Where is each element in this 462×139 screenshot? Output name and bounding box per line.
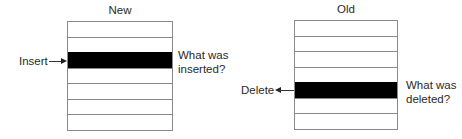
new-table-row	[68, 37, 172, 53]
inserted-question-line2: inserted?	[178, 62, 229, 76]
inserted-question: What was inserted?	[178, 48, 229, 76]
old-table-row	[295, 36, 397, 52]
insert-label: Insert	[19, 54, 48, 68]
old-table-row	[295, 113, 397, 129]
new-table-row	[68, 83, 172, 99]
inserted-question-line1: What was	[178, 48, 229, 62]
new-table-row	[68, 68, 172, 84]
delete-label: Delete	[241, 83, 274, 97]
new-table	[67, 21, 173, 131]
new-table-row	[68, 22, 172, 37]
new-table-title: New	[67, 4, 173, 16]
new-table-inserted-row	[68, 52, 172, 68]
old-table-row	[295, 21, 397, 36]
old-table	[294, 20, 398, 130]
old-table-title: Old	[294, 3, 398, 15]
insert-arrow-head-icon	[61, 58, 67, 64]
old-table-row	[295, 67, 397, 83]
deleted-question: What was deleted?	[406, 78, 457, 106]
deleted-question-line2: deleted?	[406, 92, 457, 106]
new-table-row	[68, 114, 172, 130]
old-table-row	[295, 98, 397, 114]
old-table-row	[295, 51, 397, 67]
new-table-row	[68, 99, 172, 115]
deleted-question-line1: What was	[406, 78, 457, 92]
old-table-deleted-row	[295, 82, 397, 98]
delete-arrow-line	[279, 90, 294, 91]
